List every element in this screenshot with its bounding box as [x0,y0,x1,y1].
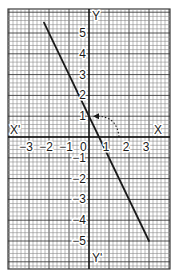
x-tick-label: 2 [123,140,130,154]
x-tick-label: −3 [19,140,33,154]
x-tick-label: −1 [59,140,73,154]
x-tick-label: 1 [103,140,110,154]
x-axis-neg-label: X' [10,123,20,137]
y-tick-label: −4 [72,213,86,227]
y-tick-label: 5 [79,26,86,40]
x-tick-label: −2 [39,140,53,154]
y-tick-label: −5 [72,234,86,248]
x-axis-label: X [154,123,162,137]
y-tick-label: 3 [79,68,86,82]
x-tick-label: 3 [143,140,150,154]
y-tick-label: −2 [72,172,86,186]
y-tick-label: 2 [79,88,86,102]
y-axis-neg-label: Y' [92,251,102,265]
coordinate-graph: Y Y' X X' 0 −3−2−112354321−1−2−3−4−5 [0,0,176,280]
y-axis-label: Y [92,9,100,23]
y-tick-label: 1 [79,109,86,123]
y-tick-label: −3 [72,192,86,206]
y-tick-label: 4 [79,47,86,61]
y-tick-label: −1 [72,151,86,165]
